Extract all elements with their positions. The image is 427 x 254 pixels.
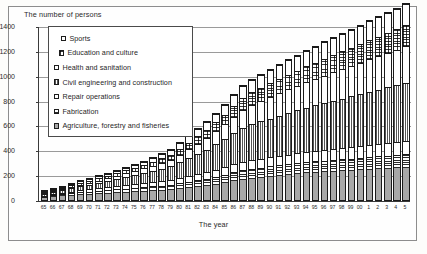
bar-segment xyxy=(231,172,237,181)
bar-segment xyxy=(268,83,274,97)
bar-segment xyxy=(313,151,319,161)
bar-segment xyxy=(394,155,400,169)
bar-segment xyxy=(340,159,346,171)
legend-item-label: Repair operations xyxy=(62,92,120,101)
bar-segment xyxy=(268,97,274,119)
stacked-bar xyxy=(50,188,58,201)
bar-segment xyxy=(168,160,174,167)
x-tick-label: 82 xyxy=(193,204,202,210)
bar-segment xyxy=(150,191,156,200)
x-tick-label: 79 xyxy=(165,204,174,210)
bar-segment xyxy=(213,185,219,200)
bar-segment xyxy=(268,70,274,83)
bar-segment xyxy=(195,180,201,187)
legend-item-label: Health and sanitation xyxy=(62,63,131,72)
stacked-bar xyxy=(321,41,329,201)
bar-column xyxy=(338,27,347,201)
bar-segment xyxy=(132,175,138,184)
legend-item-label: Agriculture, forestry and fisheries xyxy=(62,121,169,130)
bar-segment xyxy=(231,164,237,172)
bar-segment xyxy=(403,25,409,46)
x-tick-label: 76 xyxy=(138,204,147,210)
stacked-bar xyxy=(339,33,347,201)
x-tick-label: 91 xyxy=(274,204,283,210)
x-tick-label: 94 xyxy=(301,204,310,210)
bar-segment xyxy=(231,106,237,117)
bar-segment xyxy=(313,105,319,151)
bar-segment xyxy=(177,155,183,163)
bar-segment xyxy=(367,59,373,92)
bar-segment xyxy=(114,179,120,186)
bar-segment xyxy=(286,175,292,200)
bar-column xyxy=(401,27,410,201)
bar-segment xyxy=(394,50,400,86)
bar-segment xyxy=(222,175,228,183)
bar-segment xyxy=(322,161,328,173)
bar-column xyxy=(221,27,230,201)
x-tick-label: 65 xyxy=(39,204,48,210)
bar-column xyxy=(284,27,293,201)
x-tick-label: 83 xyxy=(202,204,211,210)
bar-segment xyxy=(141,192,147,200)
bar-segment xyxy=(258,121,264,158)
bar-segment xyxy=(268,157,274,166)
x-tick-label: 68 xyxy=(66,204,75,210)
bar-segment xyxy=(385,156,391,169)
legend-item: Sports xyxy=(54,31,188,46)
x-tick-label: 87 xyxy=(238,204,247,210)
x-tick-label: 72 xyxy=(102,204,111,210)
bar-segment xyxy=(150,171,156,182)
bar-segment xyxy=(295,86,301,111)
legend: SportsEducation and cultureHealth and sa… xyxy=(48,26,193,137)
bar-segment xyxy=(249,160,255,169)
stacked-bar xyxy=(122,167,130,201)
bar-segment xyxy=(403,46,409,83)
bar-segment xyxy=(249,169,255,179)
x-axis-label: The year xyxy=(0,220,427,229)
bar-segment xyxy=(240,128,246,162)
y-tick-mark xyxy=(36,201,39,202)
bar-segment xyxy=(268,119,274,158)
legend-item: Education and culture xyxy=(54,46,188,61)
bar-segment xyxy=(204,186,210,200)
bar-segment xyxy=(204,138,210,150)
bar-segment xyxy=(358,170,364,200)
bar-segment xyxy=(42,198,48,200)
x-tick-label: 67 xyxy=(57,204,66,210)
bar-segment xyxy=(222,183,228,200)
bar-segment xyxy=(376,37,382,57)
x-tick-label: 93 xyxy=(292,204,301,210)
y-tick-label: 800 xyxy=(0,98,15,105)
stacked-bar xyxy=(348,29,356,201)
bar-column xyxy=(212,27,221,201)
bar-segment xyxy=(286,155,292,165)
bar-segment xyxy=(286,164,292,175)
x-tick-label: 86 xyxy=(229,204,238,210)
bar-column xyxy=(248,27,257,201)
stacked-bar xyxy=(113,170,121,201)
bar-segment xyxy=(295,174,301,200)
bar-segment xyxy=(340,34,346,51)
bar-segment xyxy=(87,195,93,200)
bar-segment xyxy=(132,192,138,200)
x-tick-label: 00 xyxy=(355,204,364,210)
x-tick-label: 88 xyxy=(247,204,256,210)
bar-segment xyxy=(60,196,66,200)
bar-column xyxy=(257,27,266,201)
y-tick-label: 0 xyxy=(0,197,15,204)
stacked-bar xyxy=(294,55,302,201)
bar-segment xyxy=(349,66,355,97)
x-tick-label: 1 xyxy=(364,204,373,210)
bar-segment xyxy=(376,144,382,156)
x-tick-label: 95 xyxy=(310,204,319,210)
bar-segment xyxy=(213,144,219,169)
bar-segment xyxy=(204,150,210,173)
x-tick-label: 74 xyxy=(120,204,129,210)
bar-segment xyxy=(340,51,346,69)
stacked-bar xyxy=(194,128,202,201)
bar-segment xyxy=(240,162,246,170)
x-tick-label: 5 xyxy=(400,204,409,210)
bar-segment xyxy=(331,38,337,55)
bar-segment xyxy=(51,197,57,200)
legend-swatch-icon xyxy=(54,79,59,84)
